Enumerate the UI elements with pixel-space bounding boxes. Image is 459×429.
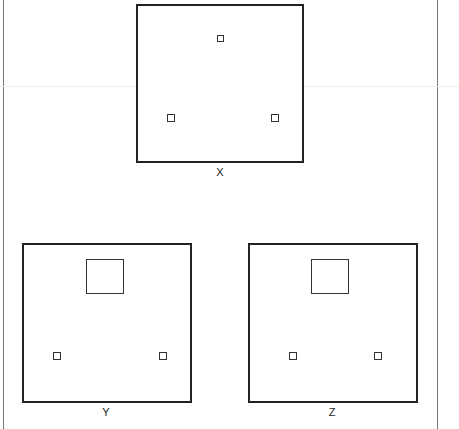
right-border-line bbox=[437, 0, 438, 429]
small-square-y bbox=[53, 352, 61, 360]
large-square-z bbox=[311, 259, 349, 294]
panel-label-y: Y bbox=[86, 406, 126, 418]
large-square-y bbox=[86, 259, 124, 294]
small-square-z bbox=[289, 352, 297, 360]
small-square-y bbox=[159, 352, 167, 360]
small-square-x bbox=[217, 35, 224, 42]
panel-box-x bbox=[136, 4, 304, 163]
left-border-line bbox=[3, 0, 4, 429]
panel-label-z: Z bbox=[312, 406, 352, 418]
small-square-x bbox=[271, 114, 279, 122]
small-square-x bbox=[167, 114, 175, 122]
panel-label-x: X bbox=[200, 166, 240, 178]
small-square-z bbox=[374, 352, 382, 360]
